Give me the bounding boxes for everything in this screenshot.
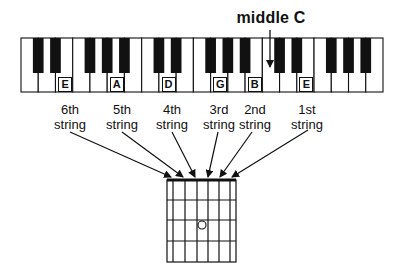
black-key — [326, 38, 337, 73]
black-key — [119, 38, 130, 73]
key-label-b: B — [248, 77, 262, 92]
label-line1: 6th — [45, 102, 95, 117]
label-line2: string — [230, 117, 280, 132]
arrow-5th-string — [122, 132, 183, 177]
label-4th-string: 4th string — [147, 102, 197, 132]
arrow-4th-string — [172, 132, 195, 177]
black-key — [274, 38, 285, 73]
key-label-a: A — [110, 77, 124, 92]
label-line1: 5th — [97, 102, 147, 117]
fretboard — [167, 180, 236, 262]
black-key — [343, 38, 354, 73]
label-line2: string — [282, 117, 332, 132]
piano-keyboard — [21, 38, 383, 92]
label-line1: 4th — [147, 102, 197, 117]
string-arrows — [70, 130, 308, 177]
key-label-e: E — [58, 77, 72, 92]
arrow-1st-string — [232, 130, 308, 177]
label-6th-string: 6th string — [45, 102, 95, 132]
fret-marker — [198, 221, 206, 229]
black-key — [223, 38, 234, 73]
label-line1: 1st — [282, 102, 332, 117]
label-line1: 2nd — [230, 102, 280, 117]
label-line2: string — [45, 117, 95, 132]
black-key — [50, 38, 61, 73]
black-key — [171, 38, 182, 73]
black-key — [33, 38, 44, 73]
label-2nd-string: 2nd string — [230, 102, 280, 132]
key-label-d: D — [162, 77, 176, 92]
label-5th-string: 5th string — [97, 102, 147, 132]
arrow-3rd-string — [208, 132, 218, 177]
label-1st-string: 1st string — [282, 102, 332, 132]
black-key — [240, 38, 251, 73]
black-key — [85, 38, 96, 73]
arrow-2nd-string — [220, 132, 252, 177]
key-label-e: E — [299, 77, 313, 92]
black-key — [360, 38, 371, 73]
key-label-g: G — [213, 77, 227, 92]
black-key — [205, 38, 216, 73]
guitar-keyboard-diagram: middle C 6th string 5th string 4th strin… — [0, 0, 400, 270]
middle-c-label: middle C — [234, 9, 308, 27]
black-key — [102, 38, 113, 73]
arrow-6th-string — [70, 132, 171, 177]
black-key — [291, 38, 302, 73]
label-line2: string — [147, 117, 197, 132]
label-line2: string — [97, 117, 147, 132]
black-key — [154, 38, 165, 73]
diagram-graphics — [0, 0, 400, 270]
